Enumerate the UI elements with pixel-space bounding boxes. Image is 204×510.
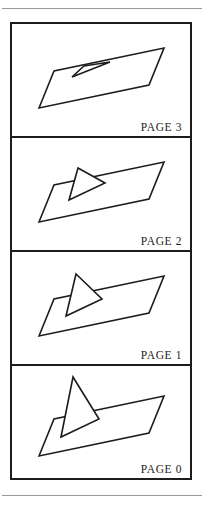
panel-page-0: PAGE 0 <box>12 366 190 478</box>
panel-page-3: PAGE 3 <box>12 24 190 138</box>
figure-root: PAGE 3 PAGE 2 PAGE 1 PAGE 0 <box>0 0 204 510</box>
panel-page-2: PAGE 2 <box>12 138 190 252</box>
slab-polygon <box>39 396 164 456</box>
panel-label-page-1: PAGE 1 <box>141 349 182 361</box>
slab-polygon <box>39 162 164 222</box>
panel-label-page-2: PAGE 2 <box>141 235 182 247</box>
diagram-page-0 <box>12 366 190 478</box>
panel-stack: PAGE 3 PAGE 2 PAGE 1 PAGE 0 <box>10 22 192 480</box>
panel-label-page-3: PAGE 3 <box>141 121 182 133</box>
top-rule <box>2 8 202 9</box>
slab-polygon <box>39 48 164 108</box>
bottom-rule <box>2 495 202 496</box>
panel-page-1: PAGE 1 <box>12 252 190 366</box>
panel-label-page-0: PAGE 0 <box>141 463 182 475</box>
slab-polygon <box>39 276 164 336</box>
